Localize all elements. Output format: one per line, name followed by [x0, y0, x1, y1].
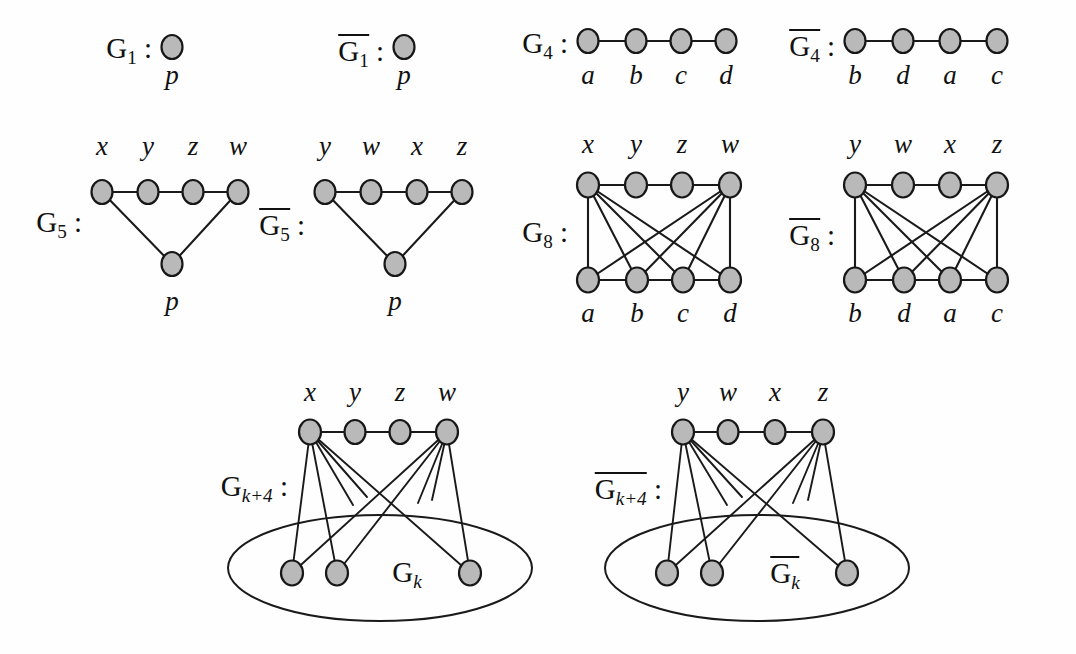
panel-label-g1-sub: 1	[127, 47, 137, 68]
blob-label-gk: Gk	[392, 558, 421, 591]
panel-label-g4-bar: G4 :	[789, 29, 835, 65]
vertex-label-gk4-bar-x: x	[769, 379, 781, 406]
vertex-label-g5-bar-y: y	[319, 133, 331, 160]
vertex-label-g8-a: a	[581, 300, 595, 327]
vertex-label-gk4-bar-z: z	[818, 379, 829, 406]
panel-g1-graph	[162, 35, 183, 59]
vertex-label-g5-y: y	[142, 133, 154, 160]
vertex-label-gk4-w: w	[438, 379, 456, 406]
vertex-label-g8-z: z	[677, 131, 688, 158]
panel-label-g1-name: G	[106, 32, 127, 64]
vertex-label-g8-d: d	[723, 300, 737, 327]
vertex-label-g8-bar-w: w	[894, 131, 912, 158]
vertex-label-g4-bar-c: c	[991, 62, 1003, 89]
vertex-label-g5-w: w	[229, 133, 247, 160]
vertex-label-g4-a: a	[581, 62, 595, 89]
vertex-label-g8-y: y	[630, 131, 642, 158]
vertex-label-g8-bar-c: c	[991, 300, 1003, 327]
vertex-label-g1-p: p	[165, 62, 179, 89]
panel-gk4-bar-graph	[605, 420, 909, 622]
vertex-label-gk4-z: z	[395, 379, 406, 406]
vertex-label-g5-bar-x: x	[411, 133, 423, 160]
vertex-label-g5-p: p	[165, 288, 179, 315]
vertex-label-g5-x: x	[96, 133, 108, 160]
vertex-label-g8-bar-z: z	[992, 131, 1003, 158]
panel-gk4-graph	[228, 420, 532, 622]
panel-g5-bar-graph	[315, 180, 473, 276]
vertex-label-g8-bar-y: y	[849, 131, 861, 158]
vertex-label-g8-b: b	[630, 300, 644, 327]
panel-label-gk4: Gk+4 :	[221, 472, 288, 505]
vertex-label-g8-c: c	[677, 300, 689, 327]
vertex-label-g4-d: d	[719, 62, 733, 89]
vertex-label-g5-bar-z: z	[457, 133, 468, 160]
panel-label-g1-bar: G1 :	[338, 34, 384, 70]
panel-label-g8-bar: G8 :	[789, 218, 835, 254]
panel-label-g1-bar-name: G1	[338, 34, 369, 70]
panel-g8-bar-graph	[844, 173, 1008, 293]
panel-g4-bar-graph	[845, 29, 1008, 53]
panel-label-g5-bar: G5 :	[259, 208, 305, 244]
vertex-label-g4-c: c	[675, 62, 687, 89]
panel-g5-graph	[92, 180, 249, 276]
vertex-label-g4-bar-d: d	[896, 62, 910, 89]
vertex-label-g5-bar-w: w	[362, 133, 380, 160]
vertex-label-g4-bar-a: a	[943, 62, 957, 89]
vertex-label-g8-bar-a: a	[943, 300, 957, 327]
panel-label-g8: G8 :	[522, 218, 568, 251]
vertex-label-g8-w: w	[721, 131, 739, 158]
panel-label-gk4-bar: Gk+4 :	[595, 472, 662, 508]
vertex-label-g4-b: b	[629, 62, 643, 89]
panel-g1-bar-graph	[394, 35, 415, 59]
blob-label-gk-bar: Gk	[770, 556, 799, 592]
vertex-label-g8-bar-d: d	[897, 300, 911, 327]
vertex-label-g1-bar-p: p	[397, 62, 411, 89]
vertex-label-g8-x: x	[582, 131, 594, 158]
panel-g4-graph	[578, 29, 737, 53]
vertex-label-g8-bar-b: b	[848, 300, 862, 327]
figure-canvas: G1 : p G1 : p G4 : a b c d G4 : b d a c …	[0, 0, 1076, 654]
graph-drawing-layer	[0, 0, 1076, 654]
panel-label-g5: G5 :	[36, 208, 82, 241]
vertex-label-gk4-bar-w: w	[719, 379, 737, 406]
panel-g8-graph	[577, 173, 741, 293]
vertex-label-g5-bar-p: p	[388, 288, 402, 315]
vertex-label-gk4-x: x	[304, 379, 316, 406]
panel-label-g4: G4 :	[522, 29, 568, 62]
vertex-label-g8-bar-x: x	[944, 131, 956, 158]
panel-label-g1: G1 :	[106, 34, 152, 67]
vertex-label-gk4-bar-y: y	[677, 379, 689, 406]
vertex-label-g4-bar-b: b	[848, 62, 862, 89]
vertex-label-gk4-y: y	[349, 379, 361, 406]
vertex-label-g5-z: z	[188, 133, 199, 160]
panel-label-g1-colon: :	[144, 32, 152, 64]
